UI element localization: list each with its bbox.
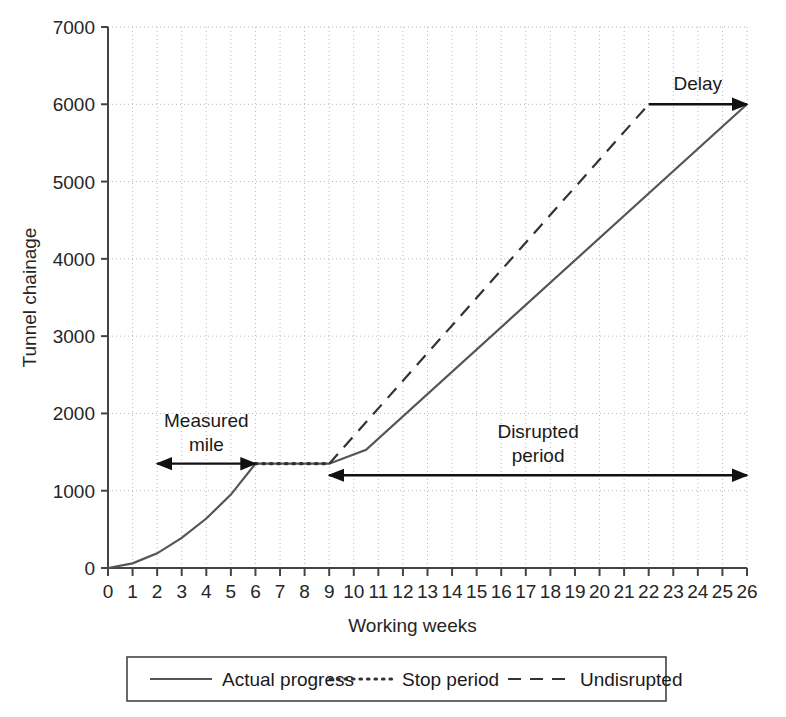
x-tick-label: 5 <box>226 581 237 602</box>
y-tick-label: 0 <box>84 558 95 579</box>
x-tick-label: 12 <box>392 581 413 602</box>
x-tick-label: 4 <box>201 581 212 602</box>
x-tick-label: 1 <box>127 581 138 602</box>
annotation-label-disrupted: Disrupted <box>497 421 578 442</box>
y-axis-title: Tunnel chainage <box>19 228 40 368</box>
y-tick-label: 7000 <box>53 17 95 38</box>
x-tick-label: 14 <box>442 581 464 602</box>
y-tick-label: 2000 <box>53 403 95 424</box>
x-tick-label: 0 <box>103 581 114 602</box>
annotation-label-disrupted-line2: period <box>512 445 565 466</box>
x-tick-label: 7 <box>275 581 286 602</box>
x-tick-label: 13 <box>417 581 438 602</box>
y-tick-label: 3000 <box>53 326 95 347</box>
x-tick-label: 22 <box>638 581 659 602</box>
x-tick-label: 26 <box>736 581 757 602</box>
series-line-actual-progress <box>108 104 747 568</box>
x-tick-label: 24 <box>687 581 709 602</box>
x-tick-label: 17 <box>515 581 536 602</box>
y-tick-label: 5000 <box>53 172 95 193</box>
x-tick-label: 23 <box>663 581 684 602</box>
x-axis-title: Working weeks <box>348 615 476 636</box>
y-tick-label: 6000 <box>53 94 95 115</box>
x-tick-label: 15 <box>466 581 487 602</box>
y-tick-label: 1000 <box>53 481 95 502</box>
annotation-label-measured-line2: mile <box>189 434 224 455</box>
gridlines <box>108 27 747 568</box>
legend-label-actual-progress: Actual progress <box>222 669 354 690</box>
x-tick-label: 2 <box>152 581 163 602</box>
legend-label-stop-period: Stop period <box>402 669 499 690</box>
x-tick-label: 25 <box>712 581 733 602</box>
x-tick-label: 8 <box>299 581 310 602</box>
progress-chart: 0100020003000400050006000700001234567891… <box>0 0 786 717</box>
x-tick-label: 10 <box>343 581 364 602</box>
x-tick-label: 6 <box>250 581 261 602</box>
x-tick-label: 21 <box>614 581 635 602</box>
annotation-label-delay: Delay <box>674 73 723 94</box>
x-tick-label: 18 <box>540 581 561 602</box>
x-tick-label: 3 <box>176 581 187 602</box>
x-tick-label: 20 <box>589 581 610 602</box>
x-tick-label: 16 <box>491 581 512 602</box>
x-tick-label: 11 <box>368 581 388 602</box>
legend-label-undisrupted: Undisrupted <box>580 669 682 690</box>
y-tick-label: 4000 <box>53 249 95 270</box>
annotation-label-measured: Measured <box>164 410 249 431</box>
x-tick-label: 19 <box>564 581 585 602</box>
series-line-undisrupted <box>329 104 649 463</box>
chart-container: 0100020003000400050006000700001234567891… <box>0 0 786 717</box>
x-tick-label: 9 <box>324 581 335 602</box>
